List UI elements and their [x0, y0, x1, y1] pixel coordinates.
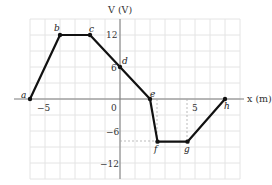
data-points: [28, 33, 227, 144]
x-axis-label: x (m): [247, 93, 272, 104]
y-tick-neg6: −6: [106, 127, 120, 137]
x-tick-neg5: −5: [37, 103, 51, 113]
y-tick-6: 6: [111, 63, 117, 73]
point-label-f: f: [153, 144, 159, 154]
x-tick-0: 0: [111, 103, 117, 113]
point-label-a: a: [21, 90, 26, 100]
point-label-c: c: [89, 24, 94, 34]
point-label-e: e: [150, 89, 155, 99]
x-tick-5: 5: [192, 103, 198, 113]
y-axis-label: V (V): [107, 4, 132, 15]
point-label-b: b: [54, 23, 60, 33]
y-tick-neg12: −12: [100, 159, 119, 169]
data-point-b: [58, 33, 62, 37]
point-label-h: h: [224, 101, 230, 111]
y-tick-12: 12: [106, 30, 117, 40]
potential-vs-position-chart: −5 0 5 12 6 −6 −12 V (V) x (m) a b c d e…: [0, 0, 272, 185]
point-label-g: g: [184, 144, 190, 154]
data-point-a: [28, 97, 32, 101]
point-label-d: d: [122, 56, 128, 66]
